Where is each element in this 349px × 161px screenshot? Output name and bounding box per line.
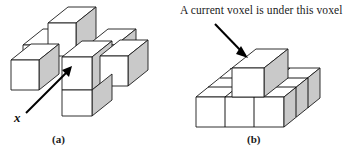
voxel-x-label: x xyxy=(14,110,21,126)
caption-panel-b: (b) xyxy=(247,133,260,145)
panel-b-voxels xyxy=(196,49,320,127)
voxel-figure: A current voxel is under this voxel x (a… xyxy=(0,0,349,161)
voxel-left xyxy=(11,44,59,90)
current-voxel-annotation: A current voxel is under this voxel xyxy=(180,4,343,16)
caption-panel-a: (a) xyxy=(52,133,65,145)
panel-a-voxels xyxy=(11,7,148,116)
slab-front-face xyxy=(196,97,284,127)
panel-b-annotation-arrow xyxy=(215,24,248,58)
